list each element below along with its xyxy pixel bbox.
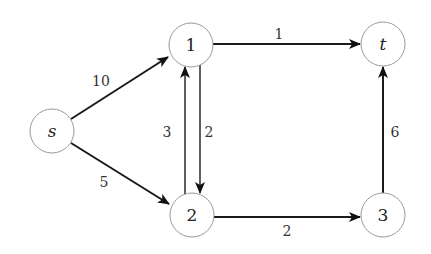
node-3-label: 3 xyxy=(378,205,389,225)
node-t: t xyxy=(361,22,405,66)
node-1: 1 xyxy=(169,23,213,67)
edge-label-s-1: 10 xyxy=(92,73,110,89)
node-2: 2 xyxy=(170,193,214,237)
edge-s-to-1 xyxy=(71,57,168,119)
node-t-label: t xyxy=(380,34,387,54)
edges xyxy=(71,44,383,217)
edge-label-3-t: 6 xyxy=(391,124,400,140)
node-1-label: 1 xyxy=(186,35,197,55)
node-s: s xyxy=(30,109,74,153)
edge-label-2-1: 3 xyxy=(163,124,172,140)
edge-labels: 10 5 3 2 1 2 6 xyxy=(92,26,399,239)
flow-network-diagram: 10 5 3 2 1 2 6 s 1 2 3 t xyxy=(0,0,431,254)
edge-s-to-2 xyxy=(71,143,169,204)
edge-label-1-2: 2 xyxy=(205,124,214,140)
node-s-label: s xyxy=(48,121,57,141)
edge-label-2-3: 2 xyxy=(283,223,292,239)
node-2-label: 2 xyxy=(187,205,198,225)
edge-label-1-t: 1 xyxy=(275,26,284,42)
edge-label-s-2: 5 xyxy=(100,174,109,190)
node-3: 3 xyxy=(361,193,405,237)
